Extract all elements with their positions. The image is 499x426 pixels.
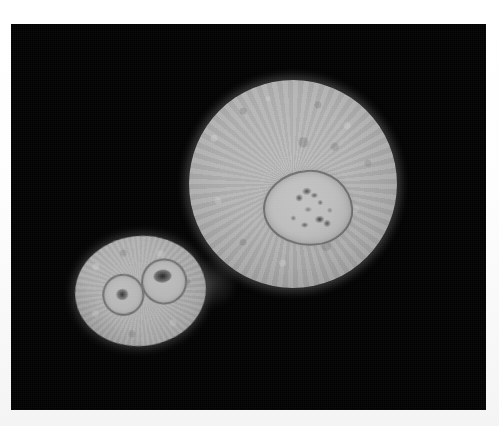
nucleolus-right — [152, 269, 171, 284]
cell-large — [189, 80, 397, 288]
image-canvas: phase-contrast light micrograph — [0, 0, 499, 426]
cell-small — [69, 229, 211, 352]
nucleolus-left — [115, 288, 128, 300]
micrograph-field — [11, 24, 486, 410]
